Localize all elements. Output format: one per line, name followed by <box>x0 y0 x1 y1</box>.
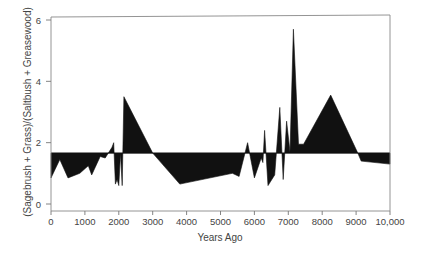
ratio-area-fill <box>51 29 390 185</box>
x-tick-label: 1000 <box>74 216 95 227</box>
y-tick-label: 2 <box>36 137 41 148</box>
y-tick-label: 6 <box>36 15 41 26</box>
x-tick-label: 3000 <box>142 216 163 227</box>
x-tick-label: 9000 <box>346 216 367 227</box>
x-tick-label: 10,000 <box>375 216 404 227</box>
x-tick-label: 2000 <box>108 216 129 227</box>
x-axis: 010002000300040005000600070008000900010,… <box>48 211 404 227</box>
y-tick-label: 0 <box>36 199 41 210</box>
y-axis: 0246 <box>36 15 51 210</box>
plot-area <box>51 29 390 185</box>
x-tick-label: 0 <box>48 216 53 227</box>
x-tick-label: 8000 <box>312 216 333 227</box>
x-tick-label: 7000 <box>278 216 299 227</box>
chart: 010002000300040005000600070008000900010,… <box>0 0 422 255</box>
x-tick-label: 6000 <box>244 216 265 227</box>
x-tick-label: 4000 <box>176 216 197 227</box>
x-tick-label: 5000 <box>210 216 231 227</box>
y-axis-title: (Sagebrush + Grass)/(Saltbush + Greasewo… <box>22 7 33 217</box>
y-tick-label: 4 <box>36 76 41 87</box>
x-axis-title: Years Ago <box>197 232 243 243</box>
